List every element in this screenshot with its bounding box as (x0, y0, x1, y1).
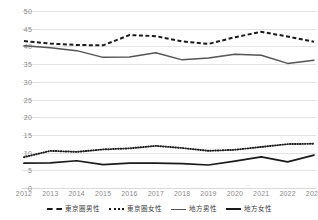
legend-swatch-icon-0 (47, 208, 62, 210)
legend-item-2[interactable]: 地方男性 (171, 206, 217, 213)
legend-item-1[interactable]: 東京圏女性 (109, 206, 162, 213)
series-line-0 (24, 32, 314, 45)
series-lines (0, 0, 318, 220)
legend-swatch-icon-3 (226, 208, 241, 210)
line-chart: 05101520253035404550 2012201320142015201… (0, 0, 318, 220)
series-line-2 (24, 46, 314, 64)
legend-label-3: 地方女性 (244, 206, 272, 213)
legend-swatch-icon-2 (171, 209, 186, 210)
chart-legend: 東京圏男性東京圏女性地方男性地方女性 (0, 206, 318, 213)
plot-area: 05101520253035404550 2012201320142015201… (0, 0, 318, 220)
legend-label-2: 地方男性 (189, 206, 217, 213)
series-line-1 (24, 144, 314, 157)
legend-item-3[interactable]: 地方女性 (226, 206, 272, 213)
legend-label-0: 東京圏男性 (65, 206, 100, 213)
legend-item-0[interactable]: 東京圏男性 (47, 206, 100, 213)
legend-swatch-icon-1 (109, 208, 124, 210)
legend-label-1: 東京圏女性 (127, 206, 162, 213)
series-line-3 (24, 155, 314, 165)
